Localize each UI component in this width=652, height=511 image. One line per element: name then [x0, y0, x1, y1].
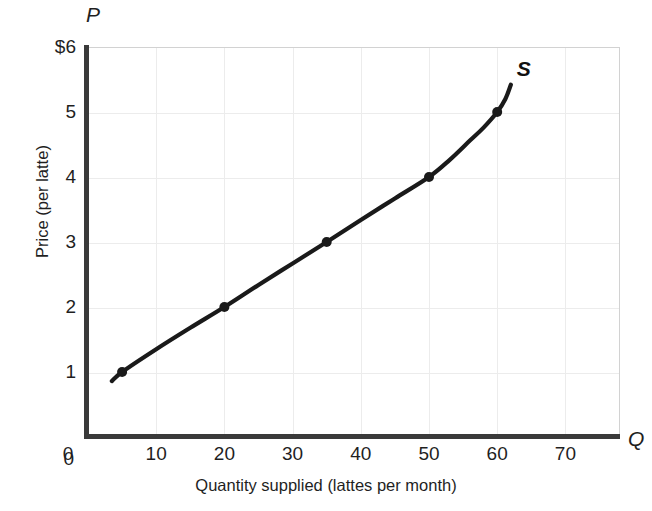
supply-curve-label: S	[517, 57, 531, 81]
data-point	[322, 237, 332, 247]
data-point	[219, 302, 229, 312]
curve-layer	[0, 0, 652, 511]
data-point	[424, 172, 434, 182]
supply-curve-path	[112, 85, 511, 381]
data-point	[117, 367, 127, 377]
supply-curve-chart: P Q 012345$6 010203040506070 Quantity su…	[0, 0, 652, 511]
data-point	[492, 107, 502, 117]
